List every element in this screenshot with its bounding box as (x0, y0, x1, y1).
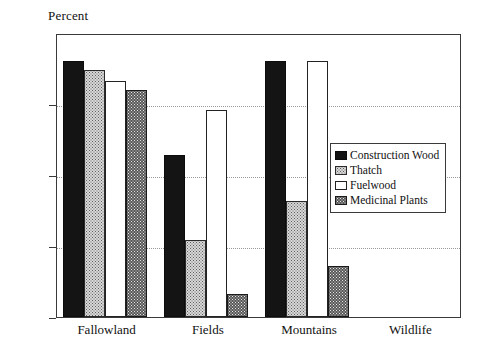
legend-item-label: Construction Wood (350, 150, 439, 162)
bar (307, 61, 328, 317)
y-axis-tick-mark (49, 105, 56, 106)
legend-item-label: Fuelwood (350, 180, 396, 192)
bar (84, 70, 105, 317)
bar (63, 61, 84, 317)
bar-chart: Percent 0255075100 FallowlandFieldsMount… (0, 0, 477, 353)
bar (126, 90, 147, 317)
bar (286, 201, 307, 317)
y-axis-tick-mark (49, 247, 56, 248)
y-axis-tick-mark (49, 318, 56, 319)
white-swatch (335, 181, 347, 190)
bar (227, 294, 248, 317)
x-axis-category-label: Fallowland (77, 322, 136, 338)
light-dotted-swatch (335, 166, 347, 175)
legend-item-label: Thatch (350, 165, 382, 177)
legend-item[interactable]: Medicinal Plants (335, 193, 439, 208)
legend-item[interactable]: Construction Wood (335, 148, 439, 163)
x-axis-category-label: Fields (192, 322, 224, 338)
y-axis-title: Percent (48, 8, 88, 24)
legend-item[interactable]: Thatch (335, 163, 439, 178)
bar (105, 81, 126, 317)
dark-dotted-swatch (335, 196, 347, 205)
bar (185, 240, 206, 317)
bar (164, 155, 185, 317)
y-axis-tick-mark (49, 176, 56, 177)
bar (265, 61, 286, 317)
x-axis-category-label: Wildlife (389, 322, 432, 338)
bar (328, 266, 349, 317)
solid-black-swatch (335, 151, 347, 160)
legend-item[interactable]: Fuelwood (335, 178, 439, 193)
x-axis-category-label: Mountains (281, 322, 337, 338)
legend: Construction Wood Thatch Fuelwood Medici… (330, 143, 446, 213)
legend-item-label: Medicinal Plants (350, 195, 428, 207)
bar (206, 110, 227, 317)
